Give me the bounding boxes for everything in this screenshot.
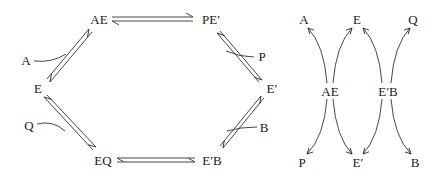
node-AE: AE bbox=[90, 13, 107, 26]
substrate-B-curve bbox=[227, 127, 257, 131]
top-A: A bbox=[299, 13, 308, 26]
equilibrium-EQ-E bbox=[44, 95, 96, 150]
equilibrium-PE1-E1 bbox=[217, 31, 262, 82]
arrow-E1B-to-Q bbox=[391, 28, 410, 83]
center-AE: AE bbox=[321, 85, 338, 98]
center-E-prime-B: E′B bbox=[378, 85, 397, 98]
substrate-A-curve bbox=[34, 54, 66, 61]
bottom-P: P bbox=[298, 156, 305, 169]
bottom-B: B bbox=[411, 156, 420, 169]
reaction-diagram-canvas: AE PE′ E E′ EQ E′B A P Q B AE E′B A E Q … bbox=[0, 0, 441, 179]
equilibrium-E1-E1B bbox=[220, 96, 264, 148]
substrate-A: A bbox=[21, 54, 30, 67]
arrow-AE-to-P bbox=[307, 99, 327, 154]
equilibrium-E1B-EQ bbox=[117, 158, 195, 162]
node-E-prime: E′ bbox=[267, 82, 278, 95]
top-Q: Q bbox=[408, 13, 417, 26]
substrate-B: B bbox=[260, 121, 269, 134]
arrow-AE-to-A bbox=[308, 28, 327, 83]
node-EQ: EQ bbox=[94, 154, 111, 167]
product-Q: Q bbox=[24, 119, 33, 132]
node-E: E bbox=[34, 82, 42, 95]
product-P: P bbox=[258, 50, 265, 63]
arrow-E1B-to-E1 bbox=[363, 99, 382, 154]
arrow-E1B-to-B bbox=[391, 99, 411, 154]
arrow-E1B-to-E bbox=[363, 28, 382, 83]
arrow-AE-to-E bbox=[333, 28, 352, 83]
product-Q-curve bbox=[37, 123, 65, 131]
top-E: E bbox=[353, 13, 361, 26]
arrow-AE-to-E1 bbox=[333, 99, 352, 154]
node-PE-prime: PE′ bbox=[202, 13, 220, 26]
bottom-E-prime: E′ bbox=[353, 156, 364, 169]
node-E-prime-B: E′B bbox=[202, 154, 221, 167]
equilibrium-E-AE bbox=[47, 29, 92, 82]
equilibrium-AE-PE1 bbox=[112, 17, 193, 21]
